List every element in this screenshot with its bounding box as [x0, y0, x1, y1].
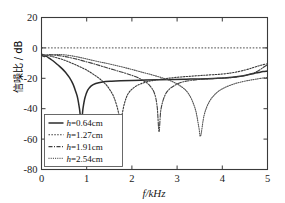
chart-figure: 012345 -80-60-40-20020 f/kHz h=0.64cmh=1…: [0, 0, 285, 203]
legend-item-label: h=2.54cm: [67, 154, 103, 164]
x-tick-label: 3: [174, 173, 179, 184]
x-tick-label: 2: [129, 173, 134, 184]
legend-item-label: h=0.64cm: [67, 118, 103, 128]
legend-item-label: h=1.27cm: [67, 130, 103, 140]
snr-vs-frequency-chart: 012345 -80-60-40-20020 f/kHz h=0.64cmh=1…: [0, 0, 285, 203]
chart-legend: h=0.64cmh=1.27cmh=1.91cmh=2.54cm: [45, 115, 123, 167]
x-axis-tick-labels: 012345: [39, 173, 270, 184]
y-tick-label: -80: [24, 164, 38, 175]
y-tick-label: -20: [24, 73, 38, 84]
legend-item-label: h=1.91cm: [67, 142, 103, 152]
x-tick-label: 1: [84, 173, 89, 184]
y-tick-label: 20: [27, 12, 38, 23]
x-tick-label: 5: [265, 173, 270, 184]
y-tick-label: -40: [24, 103, 38, 114]
x-axis-title: f/kHz: [142, 187, 166, 199]
y-tick-label: -60: [24, 134, 38, 145]
x-tick-label: 0: [39, 173, 44, 184]
y-axis-tick-labels: -80-60-40-20020: [24, 12, 38, 175]
x-tick-label: 4: [220, 173, 226, 184]
y-tick-label: 0: [32, 43, 37, 54]
